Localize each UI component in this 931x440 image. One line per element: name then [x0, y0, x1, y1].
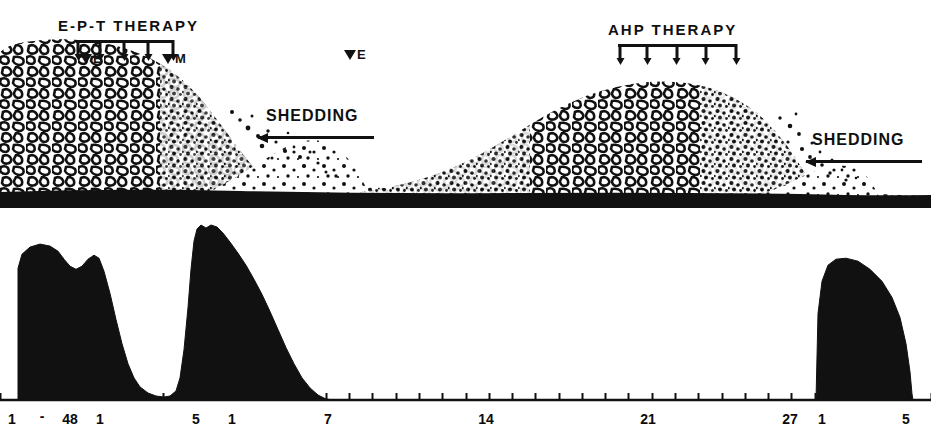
x-axis-label-6: 7 [324, 412, 332, 426]
therapy-right-dose-1 [619, 44, 622, 59]
x-axis-label-8: 21 [640, 412, 656, 426]
marker-e-left-text: E [93, 54, 102, 64]
marker-e-left: E [80, 54, 102, 64]
x-axis-label-0: 1 [8, 412, 16, 426]
x-axis-label-11: 5 [902, 412, 910, 426]
marker-e-mid-text: E [357, 50, 366, 60]
x-axis-label-2: 48 [62, 412, 78, 426]
triangle-down-icon [80, 54, 92, 64]
bacteremia-panel: 1-48151714212715 [0, 222, 931, 440]
x-axis-label-1: - [40, 409, 45, 423]
shedding-left-label: SHEDDING [266, 108, 358, 124]
x-axis-label-3: 1 [96, 412, 104, 426]
marker-m-left: M [162, 54, 186, 64]
bacteremia-area [18, 225, 913, 400]
x-axis-ticks [1, 393, 931, 400]
therapy-left-dose-1 [77, 40, 80, 55]
therapy-right-dose-5 [735, 44, 738, 59]
x-axis-label-10: 1 [818, 412, 826, 426]
vegetation-mound-right [330, 70, 830, 200]
shedding-right-arrow [806, 160, 922, 163]
therapy-left-dose-3 [123, 40, 126, 55]
therapy-right-dose-3 [675, 44, 678, 59]
x-axis-label-9: 27 [782, 412, 798, 426]
vegetation-panel: E-P-T THERAPY E M E AHP THERAPY [0, 0, 931, 222]
triangle-down-icon [162, 54, 174, 64]
x-axis-label-7: 14 [478, 412, 494, 426]
therapy-left-dose-4 [147, 40, 150, 55]
therapy-left-label: E-P-T THERAPY [58, 18, 199, 33]
marker-e-mid: E [344, 50, 366, 60]
x-axis-label-5: 1 [228, 412, 236, 426]
shedding-left-arrow [258, 136, 374, 139]
marker-m-left-text: M [175, 54, 186, 64]
therapy-right-label: AHP THERAPY [608, 22, 737, 37]
therapy-right-dose-2 [646, 44, 649, 59]
triangle-down-icon [344, 50, 356, 60]
figure-container: E-P-T THERAPY E M E AHP THERAPY [0, 0, 931, 440]
x-axis-label-4: 5 [192, 412, 200, 426]
shedding-right-label: SHEDDING [812, 132, 904, 148]
x-axis-labels: 1-48151714212715 [0, 408, 931, 432]
therapy-right-dose-4 [704, 44, 707, 59]
